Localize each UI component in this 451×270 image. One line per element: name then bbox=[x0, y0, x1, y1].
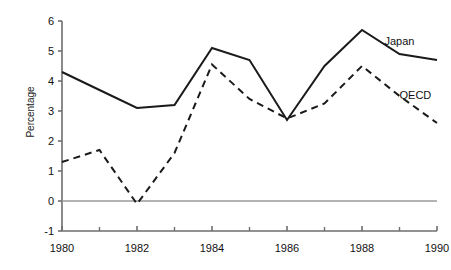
y-axis-tick-label: 2 bbox=[48, 135, 54, 147]
x-axis-tick-label: 1986 bbox=[275, 242, 299, 254]
line-chart: Percentage -10123456 1980198219841986198… bbox=[0, 0, 451, 270]
series-label-japan: Japan bbox=[385, 35, 415, 47]
series-label-oecd: OECD bbox=[400, 89, 432, 101]
x-axis-tick-label: 1984 bbox=[200, 242, 224, 254]
y-axis-title: Percentage bbox=[25, 86, 36, 138]
y-axis-title-text: Percentage bbox=[25, 86, 36, 138]
y-axis-tick-label: 5 bbox=[48, 45, 54, 57]
chart-canvas: Percentage -10123456 1980198219841986198… bbox=[0, 0, 451, 270]
y-axis-tick-label: -1 bbox=[44, 225, 54, 237]
x-axis-tick-label: 1982 bbox=[125, 242, 149, 254]
y-axis-tick-label: 1 bbox=[48, 165, 54, 177]
x-axis-tick-label: 1980 bbox=[50, 242, 74, 254]
y-axis-tick-label: 4 bbox=[48, 75, 54, 87]
x-axis-tick-label: 1988 bbox=[350, 242, 374, 254]
y-axis-tick-label: 0 bbox=[48, 195, 54, 207]
x-axis-tick-label: 1990 bbox=[425, 242, 449, 254]
chart-background bbox=[0, 0, 451, 270]
y-axis-tick-label: 6 bbox=[48, 15, 54, 27]
y-axis-tick-label: 3 bbox=[48, 105, 54, 117]
